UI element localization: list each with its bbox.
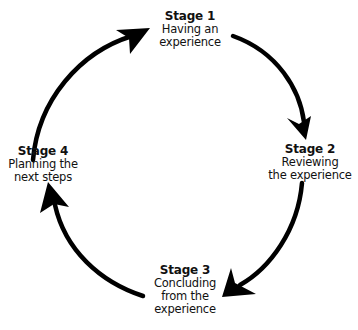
stage-2-node: Stage 2 Reviewing the experience — [262, 143, 358, 182]
stage-1-node: Stage 1 Having an experience — [140, 10, 240, 49]
stage-3-node: Stage 3 Concluding from the experience — [130, 264, 240, 316]
stage-4-description: Planning the next steps — [2, 158, 84, 184]
arrow-stage4-to-stage1 — [33, 28, 150, 160]
stage-1-description: Having an experience — [140, 23, 240, 49]
stage-4-node: Stage 4 Planning the next steps — [2, 145, 84, 184]
stage-3-description: Concluding from the experience — [130, 277, 240, 316]
arrow-stage1-to-stage2 — [233, 36, 311, 140]
arrow-stage3-to-stage4 — [40, 182, 143, 296]
stage-2-description: Reviewing the experience — [262, 156, 358, 182]
